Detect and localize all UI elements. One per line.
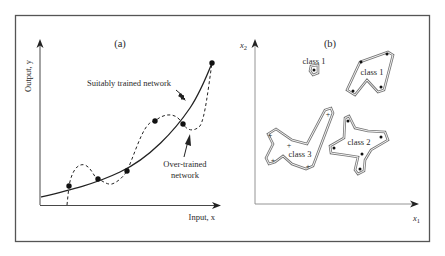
overtrained-arrow-icon [185, 134, 191, 146]
panel-b: (b) x2 x1 class 1 class 1 + [239, 38, 420, 224]
panel-a: (a) Output, y Input, x Suitably trained … [23, 38, 221, 222]
suitable-network-label: Suitably trained network [87, 78, 172, 88]
region-label: class 3 [289, 149, 312, 159]
region-class2: class 2 [330, 116, 388, 174]
svg-text:+: + [306, 162, 311, 171]
overtrained-label-line1: Over-trained [163, 159, 207, 169]
figure-canvas: (a) Output, y Input, x Suitably trained … [0, 0, 445, 256]
overtrained-label-line2: network [171, 170, 200, 180]
panel-a-label: (a) [114, 38, 126, 50]
region-class1-large: class 1 [347, 52, 393, 95]
x-axis-label-b: x1 [412, 213, 420, 224]
region-label: class 1 [361, 67, 384, 77]
data-point [95, 176, 100, 181]
x-axis-label-a: Input, x [189, 212, 216, 222]
svg-text:+: + [271, 156, 276, 165]
data-point [209, 60, 214, 65]
data-point [66, 183, 71, 188]
y-axis-label-b: x2 [239, 40, 247, 51]
svg-text:+: + [326, 110, 331, 119]
svg-text:+: + [268, 131, 273, 140]
figure-frame [16, 16, 430, 242]
region-class3: + + + + + class 3 [266, 108, 333, 171]
data-point [124, 168, 129, 173]
panel-b-label: (b) [324, 38, 337, 50]
y-axis-label-a: Output, y [23, 59, 33, 92]
region-label: class 2 [348, 137, 371, 147]
data-point [152, 118, 157, 123]
region-label: class 1 [303, 56, 326, 66]
region-class1-small: class 1 [303, 56, 326, 75]
data-point [180, 121, 185, 126]
